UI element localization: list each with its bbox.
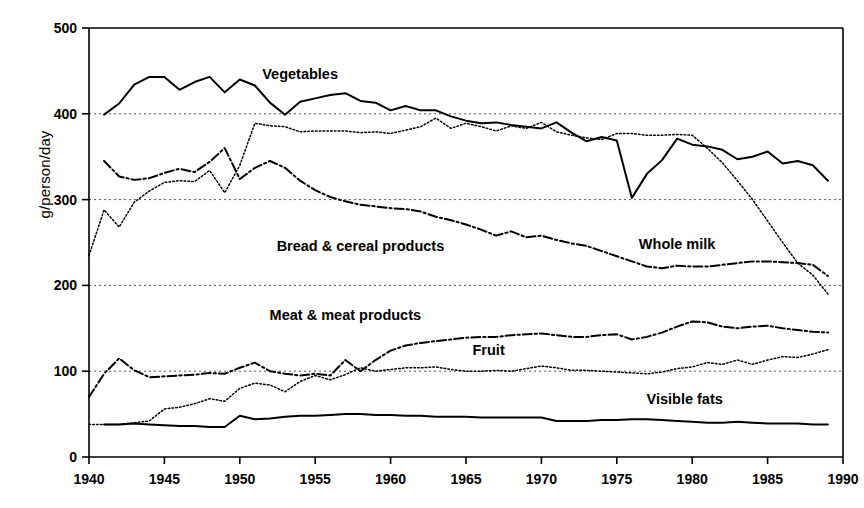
y-tick-label: 300 bbox=[54, 192, 78, 208]
series-line-bread-cereal-products bbox=[104, 148, 828, 276]
x-tick-label: 1945 bbox=[149, 471, 180, 487]
series-line-vegetables bbox=[104, 77, 828, 198]
series-line-whole-milk bbox=[89, 118, 828, 294]
y-tick-label: 400 bbox=[54, 106, 78, 122]
y-tick-label: 0 bbox=[69, 449, 77, 465]
y-tick-label: 500 bbox=[54, 20, 78, 36]
line-chart-plot: 0100200300400500194019451950195519601965… bbox=[0, 0, 864, 508]
series-label-visible-fats: Visible fats bbox=[647, 391, 723, 407]
y-tick-label: 200 bbox=[54, 277, 78, 293]
x-tick-label: 1970 bbox=[526, 471, 557, 487]
x-tick-label: 1960 bbox=[375, 471, 406, 487]
x-tick-label: 1990 bbox=[827, 471, 858, 487]
x-tick-label: 1940 bbox=[73, 471, 104, 487]
series-label-bread-cereal-products: Bread & cereal products bbox=[277, 238, 445, 254]
chart-container: g/person/day 010020030040050019401945195… bbox=[0, 0, 864, 508]
y-tick-label: 100 bbox=[54, 363, 78, 379]
x-tick-label: 1950 bbox=[224, 471, 255, 487]
x-tick-label: 1980 bbox=[677, 471, 708, 487]
series-label-fruit: Fruit bbox=[473, 342, 505, 358]
x-tick-label: 1975 bbox=[601, 471, 632, 487]
series-line-visible-fats bbox=[104, 414, 828, 427]
series-line-meat-meat-products bbox=[89, 321, 828, 397]
x-tick-label: 1955 bbox=[300, 471, 331, 487]
x-tick-label: 1965 bbox=[450, 471, 481, 487]
series-label-meat-meat-products: Meat & meat products bbox=[270, 307, 421, 323]
series-line-fruit bbox=[89, 350, 828, 425]
series-label-whole-milk: Whole milk bbox=[639, 236, 716, 252]
series-label-vegetables: Vegetables bbox=[262, 66, 338, 82]
x-tick-label: 1985 bbox=[752, 471, 783, 487]
